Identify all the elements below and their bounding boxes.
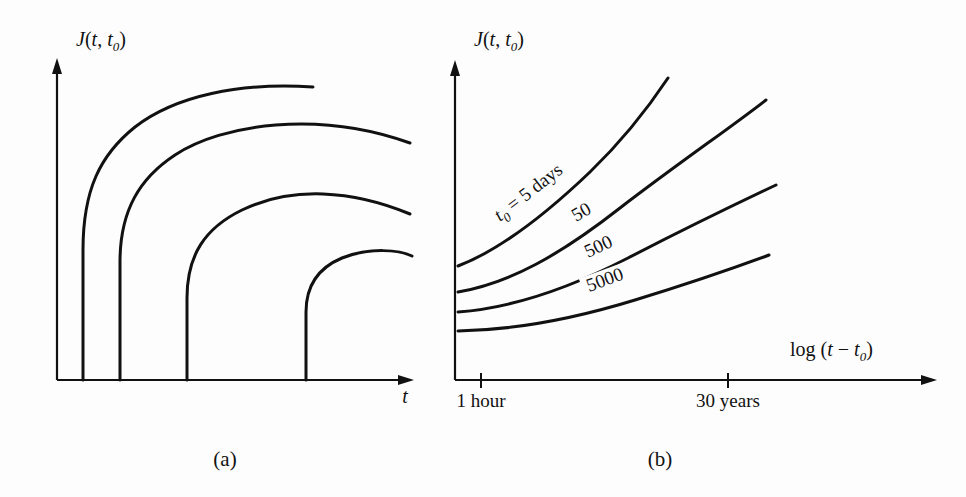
- panel-b-x-axis-label: log (t − t0): [790, 338, 873, 364]
- figure-container: J(t, t0) t (a): [0, 0, 966, 497]
- panel-b-y-axis-label: J(t, t0): [474, 28, 524, 54]
- panel-a-group: J(t, t0) t (a): [52, 28, 414, 471]
- panel-b-group: t0 = 5 days 50 500 5000 J(t, t0) lo: [450, 28, 937, 471]
- panel-b-y-axis-arrow-icon: [450, 60, 460, 76]
- figure-svg: J(t, t0) t (a): [0, 0, 966, 497]
- panel-a-x-axis-arrow-icon: [398, 375, 414, 385]
- panel-b-curve-label-t0-5-days: t0 = 5 days: [490, 159, 569, 229]
- panel-a-x-axis: [57, 375, 414, 385]
- panel-b-x-axis: [455, 375, 937, 385]
- panel-a-y-axis-label: J(t, t0): [76, 28, 126, 54]
- panel-b-x-axis-arrow-icon: [921, 375, 937, 385]
- panel-b-caption: (b): [648, 447, 673, 471]
- panel-a-caption: (a): [213, 447, 236, 471]
- panel-a-x-axis-label: t: [402, 385, 408, 407]
- panel-a-curve-1: [83, 86, 313, 380]
- panel-a-y-axis: [52, 58, 62, 380]
- panel-a-y-axis-arrow-icon: [52, 58, 62, 74]
- panel-b-tick-label-30-years: 30 years: [696, 390, 760, 411]
- panel-a-curve-3: [187, 194, 410, 380]
- panel-a-curve-4: [306, 251, 412, 380]
- panel-b-tick-label-1-hour: 1 hour: [456, 390, 506, 411]
